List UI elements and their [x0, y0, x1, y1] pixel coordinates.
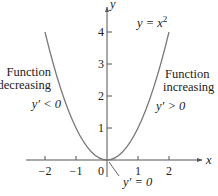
increasing-label-line1: Function: [165, 67, 210, 81]
x-tick-label: 0: [98, 164, 104, 178]
chart-canvas: −2 −1 0 1 2 1 2 3 4 x y y = x2 Function …: [0, 0, 218, 196]
curve-label: y = x2: [135, 14, 167, 30]
y-tick-label: 3: [98, 57, 104, 71]
decreasing-label-line2: decreasing: [0, 78, 52, 92]
x-tick-label: 2: [166, 164, 172, 178]
vertex-leader-line: [109, 162, 119, 176]
y-axis-label: y: [108, 0, 116, 11]
x-tick-label: −1: [70, 164, 83, 178]
y-tick-label: 4: [98, 25, 104, 39]
zero-derivative-label: y′ = 0: [121, 175, 153, 189]
y-tick-label: 2: [98, 89, 104, 103]
y-tick-label: 1: [98, 121, 104, 135]
x-tick-label: −2: [39, 164, 52, 178]
positive-derivative-label: y′ > 0: [154, 99, 186, 113]
increasing-label-line2: increasing: [163, 80, 215, 94]
negative-derivative-label: y′ < 0: [30, 97, 62, 111]
y-ticks: [107, 32, 112, 128]
x-axis-label: x: [205, 153, 212, 167]
decreasing-label-line1: Function: [7, 65, 52, 79]
